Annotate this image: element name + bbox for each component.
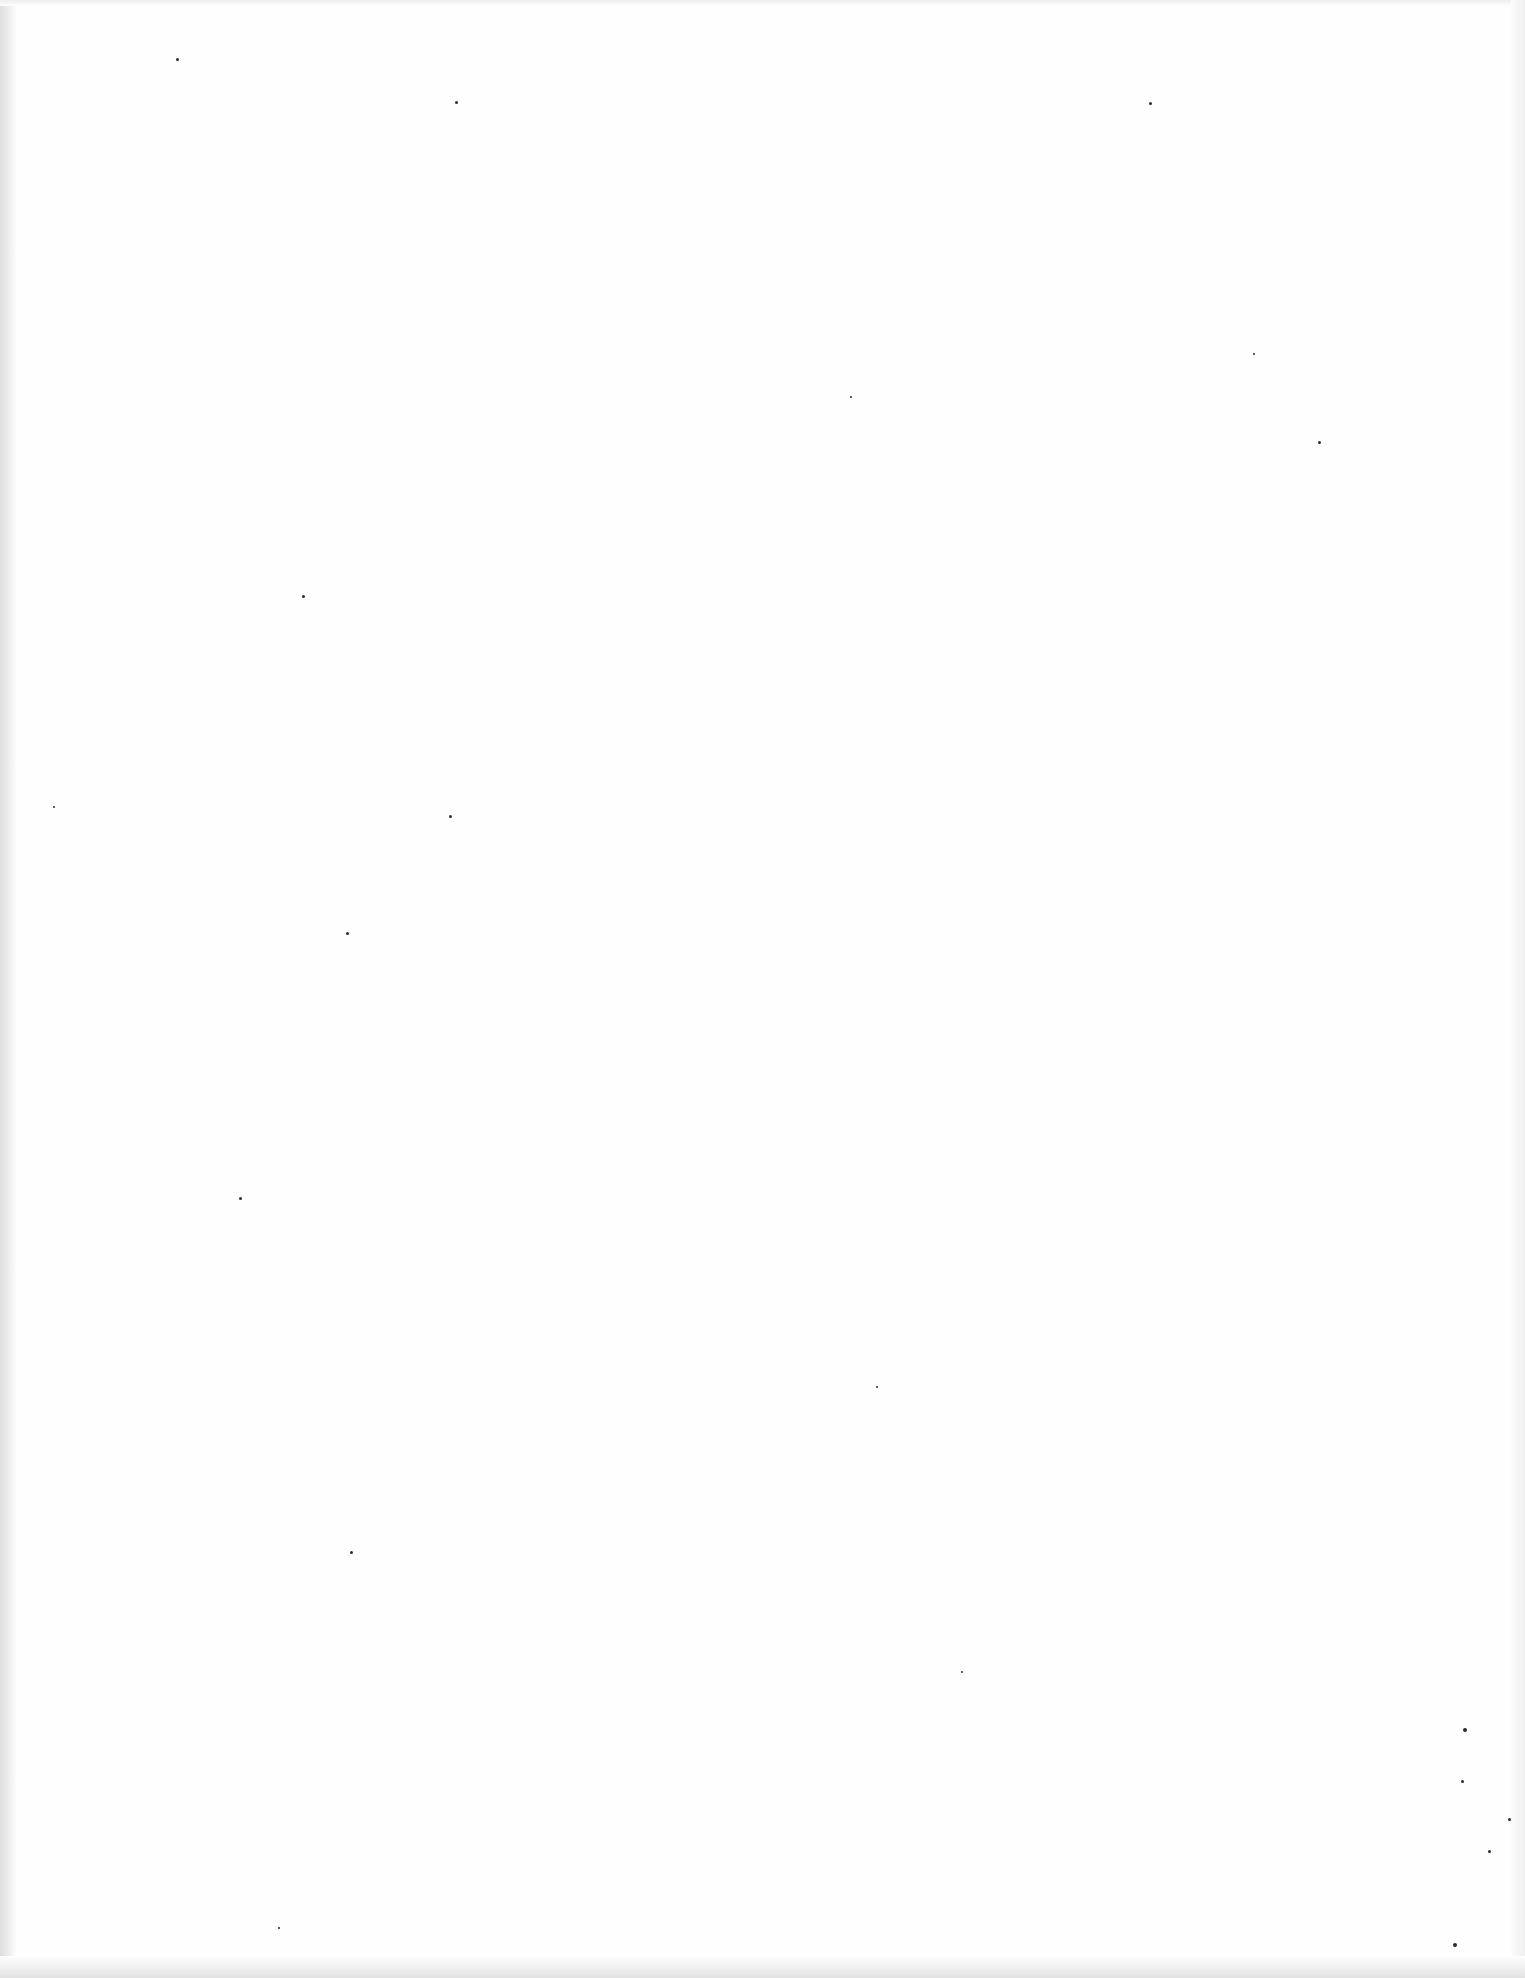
scan-speck <box>1453 1943 1457 1947</box>
scan-speck <box>1488 1850 1491 1853</box>
scan-speck <box>1463 1728 1467 1732</box>
scan-speck <box>961 1671 963 1673</box>
scan-speck <box>239 1197 242 1200</box>
scan-speck <box>53 806 55 808</box>
scan-speck <box>1508 1818 1511 1821</box>
scan-speck <box>850 396 852 398</box>
blank-page <box>0 0 1525 1978</box>
scan-speck <box>455 101 458 104</box>
scan-speck <box>302 595 305 598</box>
scan-speck <box>1253 353 1255 355</box>
scan-speck <box>350 1551 353 1554</box>
scan-speck <box>278 1927 280 1929</box>
scan-noise-layer <box>0 0 1525 1978</box>
scan-speck <box>346 932 349 935</box>
scan-speck <box>876 1386 878 1388</box>
scan-speck <box>449 815 452 818</box>
scan-speck <box>1318 441 1321 444</box>
scan-speck <box>1461 1780 1464 1783</box>
scan-speck <box>1149 102 1152 105</box>
scan-speck <box>176 58 179 61</box>
